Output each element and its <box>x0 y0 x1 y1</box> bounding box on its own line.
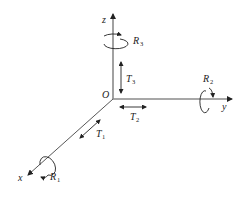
r3-label-letter: R <box>132 35 139 46</box>
translation-t3: T 3 <box>121 62 135 93</box>
rotation-r2: R 2 <box>200 73 213 113</box>
t1-label-sub: 1 <box>102 133 105 140</box>
z-axis-label: z <box>101 14 106 25</box>
x-axis-label: x <box>17 172 23 183</box>
rotation-r3: R 3 <box>104 34 143 49</box>
origin-label: O <box>102 89 109 100</box>
coordinate-diagram: z y x O T 3 T 2 T 1 R 3 <box>0 0 244 197</box>
y-axis-label: y <box>221 101 227 112</box>
translation-t1: T 1 <box>80 120 105 140</box>
t3-label-sub: 3 <box>132 78 135 85</box>
r2-label-letter: R <box>202 73 209 84</box>
r2-label-sub: 2 <box>210 78 213 85</box>
r1-label-letter: R <box>49 171 56 182</box>
rotation-r1: R 1 <box>40 157 60 183</box>
t2-label-sub: 2 <box>136 116 139 123</box>
r3-label-sub: 3 <box>140 40 143 47</box>
x-axis: x <box>17 99 113 183</box>
z-axis: z <box>101 14 113 99</box>
translation-t2: T 2 <box>120 107 146 123</box>
r1-label-sub: 1 <box>57 176 60 183</box>
